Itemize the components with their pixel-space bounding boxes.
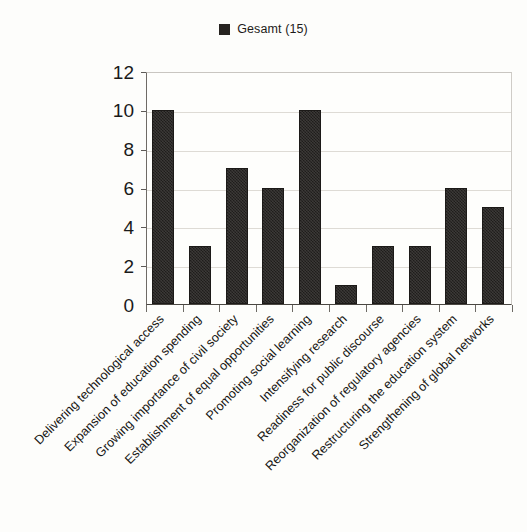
- bar[interactable]: [335, 285, 357, 304]
- x-axis-tick-mark: [329, 305, 330, 312]
- x-axis-tick-mark: [475, 305, 476, 312]
- y-axis-tick-label: 12: [94, 63, 134, 82]
- y-axis-tick-label: 8: [94, 140, 134, 159]
- plot-area: [146, 72, 512, 305]
- x-axis-tick-mark: [146, 305, 147, 312]
- x-axis-tick-mark: [512, 305, 513, 312]
- chart-legend: Gesamt (15): [0, 22, 527, 36]
- bar[interactable]: [152, 110, 174, 304]
- y-axis-tick-mark: [141, 72, 146, 73]
- bar[interactable]: [262, 188, 284, 305]
- bar[interactable]: [299, 110, 321, 304]
- y-axis-tick-label: 4: [94, 218, 134, 237]
- bar[interactable]: [445, 188, 467, 305]
- legend-label: Gesamt (15): [237, 22, 308, 36]
- x-axis-tick-mark: [219, 305, 220, 312]
- bar[interactable]: [409, 246, 431, 304]
- x-axis-tick-mark: [439, 305, 440, 312]
- bar[interactable]: [189, 246, 211, 304]
- x-axis-tick-mark: [402, 305, 403, 312]
- bar[interactable]: [226, 168, 248, 304]
- bar-chart: Gesamt (15) 024681012 Delivering technol…: [0, 0, 527, 532]
- bar[interactable]: [372, 246, 394, 304]
- y-axis-tick-mark: [141, 189, 146, 190]
- y-axis-tick-mark: [141, 111, 146, 112]
- y-axis-tick-label: 0: [94, 296, 134, 315]
- y-axis-tick-label: 6: [94, 179, 134, 198]
- y-axis-tick-mark: [141, 227, 146, 228]
- gridline: [147, 151, 511, 152]
- x-axis-tick-mark: [366, 305, 367, 312]
- gridline: [147, 112, 511, 113]
- y-axis-tick-label: 10: [94, 101, 134, 120]
- y-axis-tick-mark: [141, 150, 146, 151]
- x-axis-tick-mark: [292, 305, 293, 312]
- legend-swatch-icon: [219, 24, 230, 35]
- x-axis-tick-mark: [256, 305, 257, 312]
- bar[interactable]: [482, 207, 504, 304]
- y-axis-tick-mark: [141, 266, 146, 267]
- y-axis-tick-label: 2: [94, 257, 134, 276]
- x-axis-tick-mark: [183, 305, 184, 312]
